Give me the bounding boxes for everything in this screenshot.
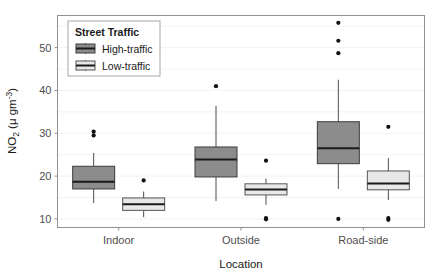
outlier-point xyxy=(264,159,268,163)
outlier-point xyxy=(214,84,218,88)
y-tick-label: 20 xyxy=(39,170,51,182)
x-tick-label: Indoor xyxy=(103,234,135,246)
y-tick-label: 50 xyxy=(39,42,51,54)
y-axis-title: NO2 (μ gm-3) xyxy=(4,88,21,154)
y-tick-label: 30 xyxy=(39,127,51,139)
outlier-point xyxy=(386,218,390,222)
legend-entry[interactable]: Low-traffic xyxy=(76,60,150,72)
x-tick-label: Road-side xyxy=(338,234,388,246)
y-axis-title-close: ) xyxy=(6,88,18,92)
outlier-point xyxy=(336,21,340,25)
x-tick-label: Outside xyxy=(222,234,260,246)
svg-text:NO2 (μ gm-3): NO2 (μ gm-3) xyxy=(4,88,21,154)
outlier-point xyxy=(336,217,340,221)
chart-canvas: 1020304050 IndoorOutsideRoad-side Locati… xyxy=(0,0,442,274)
outlier-point xyxy=(264,217,268,221)
legend-entry-label: Low-traffic xyxy=(102,60,150,72)
x-axis-title: Location xyxy=(219,258,262,270)
boxplot-chart: 1020304050 IndoorOutsideRoad-side Locati… xyxy=(0,0,442,274)
outlier-point xyxy=(336,39,340,43)
y-axis-title-main: NO xyxy=(6,137,18,154)
outlier-point xyxy=(92,129,96,133)
outlier-point xyxy=(92,133,96,137)
y-axis-tick-labels: 1020304050 xyxy=(39,42,51,225)
legend-entry[interactable]: High-traffic xyxy=(76,43,153,55)
y-tick-label: 10 xyxy=(39,213,51,225)
y-tick-label: 40 xyxy=(39,84,51,96)
y-axis-title-rest: (μ gm xyxy=(6,99,18,132)
legend-entry-label: High-traffic xyxy=(102,43,153,55)
outlier-point xyxy=(142,178,146,182)
legend[interactable]: Street Traffic High-trafficLow-traffic xyxy=(68,21,160,76)
outlier-point xyxy=(336,51,340,55)
x-axis-tick-labels: IndoorOutsideRoad-side xyxy=(103,234,388,246)
outlier-point xyxy=(386,125,390,129)
legend-title: Street Traffic xyxy=(75,26,139,38)
